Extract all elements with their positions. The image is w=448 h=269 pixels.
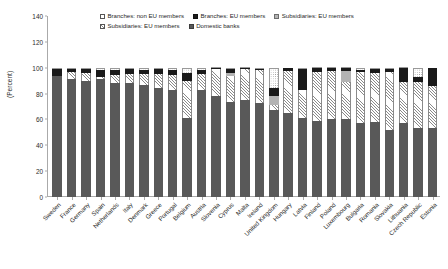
x-axis-tick-mark bbox=[404, 197, 405, 200]
bar-segment bbox=[413, 82, 423, 129]
bank-ownership-stacked-bar-chart: Branches: non EU membersBranches: EU mem… bbox=[0, 0, 448, 269]
bar-segment bbox=[413, 68, 423, 78]
bar-slot bbox=[166, 16, 180, 197]
stacked-bar[interactable] bbox=[240, 67, 250, 197]
bar-segment bbox=[399, 123, 409, 197]
bar-segment bbox=[67, 79, 77, 197]
bar-segment bbox=[428, 86, 438, 128]
stacked-bar[interactable] bbox=[428, 68, 438, 197]
bar-segment bbox=[81, 73, 91, 81]
x-axis-tick-mark bbox=[346, 197, 347, 200]
stacked-bar[interactable] bbox=[399, 67, 409, 197]
bar-segment bbox=[154, 74, 164, 88]
bar-slot bbox=[151, 16, 165, 197]
bar-segment bbox=[255, 103, 265, 197]
x-axis-tick-mark bbox=[144, 197, 145, 200]
bar-segment bbox=[356, 72, 366, 123]
x-axis-tick-mark bbox=[418, 197, 419, 200]
bar-segment bbox=[226, 76, 236, 102]
bar-segment bbox=[312, 121, 322, 197]
bar-slot bbox=[397, 16, 411, 197]
bar-segment bbox=[168, 90, 178, 197]
stacked-bar[interactable] bbox=[385, 68, 395, 197]
y-axis-tick-mark bbox=[45, 171, 48, 172]
y-axis-tick-mark bbox=[45, 93, 48, 94]
stacked-bar[interactable] bbox=[197, 68, 207, 197]
bar-slot bbox=[238, 16, 252, 197]
y-axis-tick-mark bbox=[45, 67, 48, 68]
x-axis-tick-mark bbox=[57, 197, 58, 200]
bar-slot bbox=[180, 16, 194, 197]
bar-segment bbox=[182, 81, 192, 118]
stacked-bar[interactable] bbox=[81, 68, 91, 197]
bar-slot bbox=[382, 16, 396, 197]
bar-slot bbox=[93, 16, 107, 197]
stacked-bar[interactable] bbox=[52, 68, 62, 197]
stacked-bar[interactable] bbox=[154, 68, 164, 197]
stacked-bar[interactable] bbox=[226, 68, 236, 197]
x-axis-tick-mark bbox=[216, 197, 217, 200]
stacked-bar[interactable] bbox=[139, 68, 149, 197]
bar-segment bbox=[197, 90, 207, 197]
bar-slot bbox=[137, 16, 151, 197]
x-axis-label-slot: Netherlands bbox=[108, 201, 122, 267]
bar-segment bbox=[341, 119, 351, 197]
stacked-bar[interactable] bbox=[298, 68, 308, 197]
stacked-bar[interactable] bbox=[341, 67, 351, 197]
y-axis-tick-mark bbox=[45, 41, 48, 42]
stacked-bar[interactable] bbox=[413, 68, 423, 197]
bar-slot bbox=[223, 16, 237, 197]
bar-segment bbox=[399, 82, 409, 123]
stacked-bar[interactable] bbox=[125, 68, 135, 197]
stacked-bar[interactable] bbox=[110, 68, 120, 197]
bar-slot bbox=[194, 16, 208, 197]
stacked-bar[interactable] bbox=[255, 68, 265, 197]
bar-segment bbox=[341, 71, 351, 82]
bar-slot bbox=[50, 16, 64, 197]
bar-segment bbox=[269, 68, 279, 89]
bar-slot bbox=[324, 16, 338, 197]
stacked-bar[interactable] bbox=[370, 68, 380, 197]
bar-segment bbox=[96, 79, 106, 197]
x-axis-tick-mark bbox=[173, 197, 174, 200]
bar-segment bbox=[399, 68, 409, 82]
bar-segment bbox=[298, 118, 308, 197]
bar-segment bbox=[139, 74, 149, 85]
stacked-bar[interactable] bbox=[269, 68, 279, 197]
x-axis-tick-mark bbox=[332, 197, 333, 200]
stacked-bar[interactable] bbox=[312, 67, 322, 197]
stacked-bar[interactable] bbox=[283, 68, 293, 197]
bar-slot bbox=[353, 16, 367, 197]
bar-slot bbox=[209, 16, 223, 197]
stacked-bar[interactable] bbox=[96, 68, 106, 197]
bar-segment bbox=[327, 71, 337, 119]
stacked-bar[interactable] bbox=[211, 67, 221, 197]
bar-segment bbox=[298, 90, 308, 118]
y-axis-tick-mark bbox=[45, 145, 48, 146]
x-axis-tick-mark bbox=[389, 197, 390, 200]
bar-slot bbox=[79, 16, 93, 197]
bar-segment bbox=[356, 123, 366, 197]
bar-segment bbox=[428, 68, 438, 87]
stacked-bar[interactable] bbox=[168, 68, 178, 197]
stacked-bar[interactable] bbox=[182, 68, 192, 197]
bar-segment bbox=[240, 69, 250, 100]
stacked-bar[interactable] bbox=[356, 68, 366, 197]
x-axis-tick-mark bbox=[259, 197, 260, 200]
x-axis-tick-mark bbox=[129, 197, 130, 200]
stacked-bar[interactable] bbox=[67, 68, 77, 197]
bar-slot bbox=[368, 16, 382, 197]
bar-segment bbox=[341, 82, 351, 119]
bar-slot bbox=[122, 16, 136, 197]
bar-segment bbox=[81, 81, 91, 197]
bar-segment bbox=[52, 76, 62, 197]
bar-segment bbox=[370, 73, 380, 122]
bar-segment bbox=[211, 96, 221, 197]
bar-slot bbox=[425, 16, 439, 197]
stacked-bar[interactable] bbox=[327, 67, 337, 197]
x-axis-tick-mark bbox=[115, 197, 116, 200]
bar-slot bbox=[252, 16, 266, 197]
bar-segment bbox=[385, 130, 395, 197]
x-axis-tick-mark bbox=[288, 197, 289, 200]
bar-segment bbox=[385, 72, 395, 131]
